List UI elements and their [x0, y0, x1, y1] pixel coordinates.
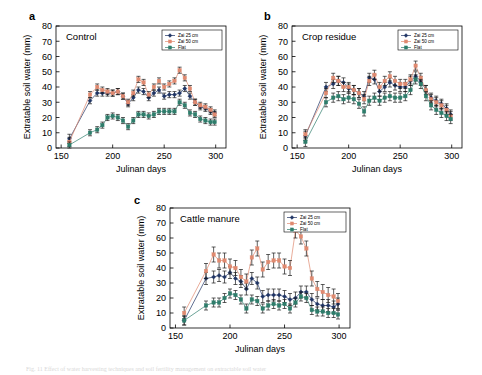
data-point — [256, 247, 259, 250]
plot-title: Control — [66, 31, 97, 42]
data-point — [324, 101, 327, 104]
y-tick-label: 10 — [156, 308, 166, 318]
data-point — [288, 297, 292, 301]
data-point — [398, 82, 401, 85]
data-point — [378, 85, 381, 88]
y-tick-label: 80 — [156, 203, 166, 213]
x-axis-label: Julinan days — [116, 164, 167, 174]
data-point — [283, 265, 286, 268]
x-tick-label: 250 — [157, 151, 172, 161]
data-point — [126, 125, 129, 128]
data-point — [266, 260, 269, 263]
data-point — [245, 280, 248, 283]
data-point — [414, 78, 417, 81]
y-axis-label: Extratable soil water (mm) — [136, 216, 146, 321]
legend-label: Zai 50 cm — [178, 39, 198, 44]
data-point — [183, 76, 186, 79]
data-point — [388, 75, 391, 78]
data-point — [111, 114, 114, 117]
panel-cattle-manure: c 01020304050607080150200250300Julinan d… — [112, 186, 362, 364]
data-point — [88, 93, 91, 96]
data-point — [337, 94, 340, 97]
data-point — [272, 293, 276, 297]
data-point — [142, 81, 145, 84]
data-point — [228, 265, 231, 268]
x-tick-label: 300 — [444, 151, 459, 161]
data-point — [95, 85, 98, 88]
data-point — [209, 108, 212, 111]
data-point — [299, 235, 302, 238]
legend-label: Flat — [414, 45, 422, 50]
x-axis-label: Julinan days — [352, 164, 403, 174]
data-point — [331, 76, 334, 79]
y-tick-label: 60 — [42, 52, 52, 62]
y-tick-label: 10 — [278, 128, 288, 138]
data-point — [193, 113, 196, 116]
data-point — [336, 299, 339, 302]
x-axis-label: Julinan days — [235, 344, 286, 354]
x-tick-label: 150 — [168, 331, 183, 341]
data-point — [261, 268, 264, 271]
data-point — [217, 273, 221, 277]
data-point — [294, 301, 297, 304]
data-point — [332, 311, 335, 314]
data-point — [347, 85, 350, 88]
data-point — [332, 295, 335, 298]
data-point — [435, 108, 438, 111]
legend-marker — [168, 40, 171, 43]
data-point — [347, 96, 350, 99]
data-point — [352, 88, 355, 91]
data-point — [147, 114, 150, 117]
y-tick-label: 10 — [42, 128, 52, 138]
data-point — [101, 123, 104, 126]
data-point — [234, 266, 237, 269]
data-point — [182, 311, 185, 314]
x-tick-label: 150 — [54, 151, 69, 161]
data-point — [277, 293, 281, 297]
y-tick-label: 50 — [42, 67, 52, 77]
data-point — [261, 307, 264, 310]
x-tick-label: 200 — [341, 151, 356, 161]
data-point — [326, 303, 330, 307]
chart-crop-residue: 01020304050607080150200250300Julinan day… — [240, 0, 482, 188]
data-point — [116, 90, 119, 93]
data-point — [373, 96, 376, 99]
data-point — [277, 304, 280, 307]
data-point — [152, 85, 155, 88]
data-point — [393, 79, 396, 82]
data-point — [272, 259, 275, 262]
data-point — [261, 294, 265, 298]
data-point — [383, 79, 386, 82]
data-point — [321, 310, 324, 313]
data-point — [288, 307, 291, 310]
data-point — [178, 101, 181, 104]
y-tick-label: 0 — [47, 143, 52, 153]
data-point — [429, 104, 432, 107]
data-point — [168, 110, 171, 113]
data-point — [199, 104, 202, 107]
y-axis-label: Extratable soil water (mm) — [22, 35, 32, 140]
data-point — [383, 96, 386, 99]
data-point — [305, 296, 308, 299]
y-tick-label: 70 — [156, 218, 166, 228]
y-tick-label: 40 — [42, 82, 52, 92]
figure-caption: Fig. 11 Effect of water harvesting techn… — [26, 366, 466, 375]
data-point — [223, 259, 226, 262]
data-point — [445, 114, 448, 117]
chart-control: 01020304050607080150200250300Julinan day… — [0, 0, 240, 188]
data-point — [217, 259, 220, 262]
data-point — [137, 78, 140, 81]
y-tick-label: 60 — [278, 52, 288, 62]
y-tick-label: 30 — [42, 98, 52, 108]
data-point — [106, 116, 109, 119]
y-tick-label: 70 — [278, 37, 288, 47]
data-point — [172, 93, 176, 97]
data-point — [304, 133, 307, 136]
data-point — [199, 117, 202, 120]
x-tick-label: 150 — [290, 151, 305, 161]
data-point — [357, 102, 360, 105]
legend-marker — [290, 222, 293, 225]
data-point — [424, 94, 427, 97]
data-point — [316, 310, 319, 313]
data-point — [116, 116, 119, 119]
